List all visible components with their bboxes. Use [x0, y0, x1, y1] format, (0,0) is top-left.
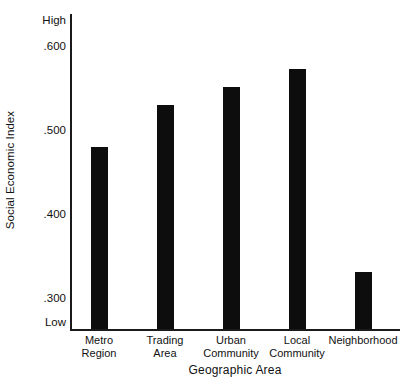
x-tick-label: MetroRegion [82, 334, 117, 359]
y-axis-low-label: Low [22, 316, 66, 328]
y-tick-label: .500 [22, 124, 66, 136]
y-axis-high-label: High [22, 14, 66, 26]
y-axis-title-text: Social Economic Index [4, 111, 16, 229]
x-tick-label-line1: Local [284, 334, 310, 346]
y-tick-label: .300 [22, 292, 66, 304]
x-tick-label: LocalCommunity [269, 334, 325, 359]
x-tick-label: TradingArea [147, 334, 184, 359]
y-tick-label: .600 [22, 40, 66, 52]
x-tick-label: Neighborhood [328, 334, 397, 347]
y-axis-title: Social Economic Index [0, 0, 20, 340]
x-tick-label: UrbanCommunity [203, 334, 259, 359]
x-tick-label-line1: Neighborhood [328, 334, 397, 346]
plot-area [70, 14, 400, 331]
x-tick-label-line2: Region [82, 347, 117, 360]
x-tick-label-line1: Trading [147, 334, 184, 346]
x-tick-label-line2: Community [269, 347, 325, 360]
y-axis-tick-labels: .600.500.400.300HighLow [20, 0, 66, 340]
x-tick-label-line2: Area [147, 347, 184, 360]
bar-chart-figure: Social Economic Index .600.500.400.300Hi… [0, 0, 420, 386]
bar [355, 272, 372, 329]
bars-layer [70, 14, 400, 330]
bar [157, 105, 174, 329]
x-axis-tick-labels: MetroRegionTradingAreaUrbanCommunityLoca… [70, 334, 410, 362]
x-axis-title: Geographic Area [70, 363, 400, 377]
bar [223, 87, 240, 329]
y-tick-label: .400 [22, 208, 66, 220]
bar [91, 147, 108, 329]
x-tick-label-line2: Community [203, 347, 259, 360]
x-tick-label-line1: Urban [216, 334, 246, 346]
bar [289, 69, 306, 329]
x-tick-label-line1: Metro [85, 334, 113, 346]
